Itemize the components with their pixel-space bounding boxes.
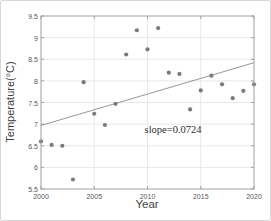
y-axis-title: Temperature(°C) [4,61,16,142]
data-point [82,80,86,84]
y-tick-label: 9.5 [28,13,38,20]
data-point [167,71,171,75]
x-tick-label: 2010 [140,193,156,200]
data-point [199,88,203,92]
data-point [209,74,213,78]
data-point [113,102,117,106]
x-tick-label: 2000 [33,193,49,200]
data-point [220,82,224,86]
data-point [156,26,160,30]
x-tick-label: 2020 [246,193,262,200]
data-point [60,144,64,148]
data-point [50,143,54,147]
data-point [135,28,139,32]
y-tick-label: 7 [34,121,38,128]
data-point [177,72,181,76]
y-tick-label: 6 [34,164,38,171]
y-tick-label: 6.5 [28,142,38,149]
y-tick-label: 7.5 [28,99,38,106]
data-point [145,47,149,51]
data-point [103,123,107,127]
data-point [188,107,192,111]
data-point [124,52,128,56]
y-tick-label: 8 [34,77,38,84]
y-tick-label: 9 [34,34,38,41]
data-point [231,96,235,100]
y-tick-label: 5.5 [28,186,38,193]
temperature-scatter-figure: Year Temperature(°C) slope=0.0724 200020… [0,0,271,221]
slope-annotation: slope=0.0724 [145,123,202,134]
x-tick-label: 2005 [86,193,102,200]
data-point [241,89,245,93]
y-tick-label: 8.5 [28,56,38,63]
data-point [71,177,75,181]
x-tick-label: 2015 [193,193,209,200]
data-point [92,112,96,116]
scatter-plot-canvas [1,1,271,221]
